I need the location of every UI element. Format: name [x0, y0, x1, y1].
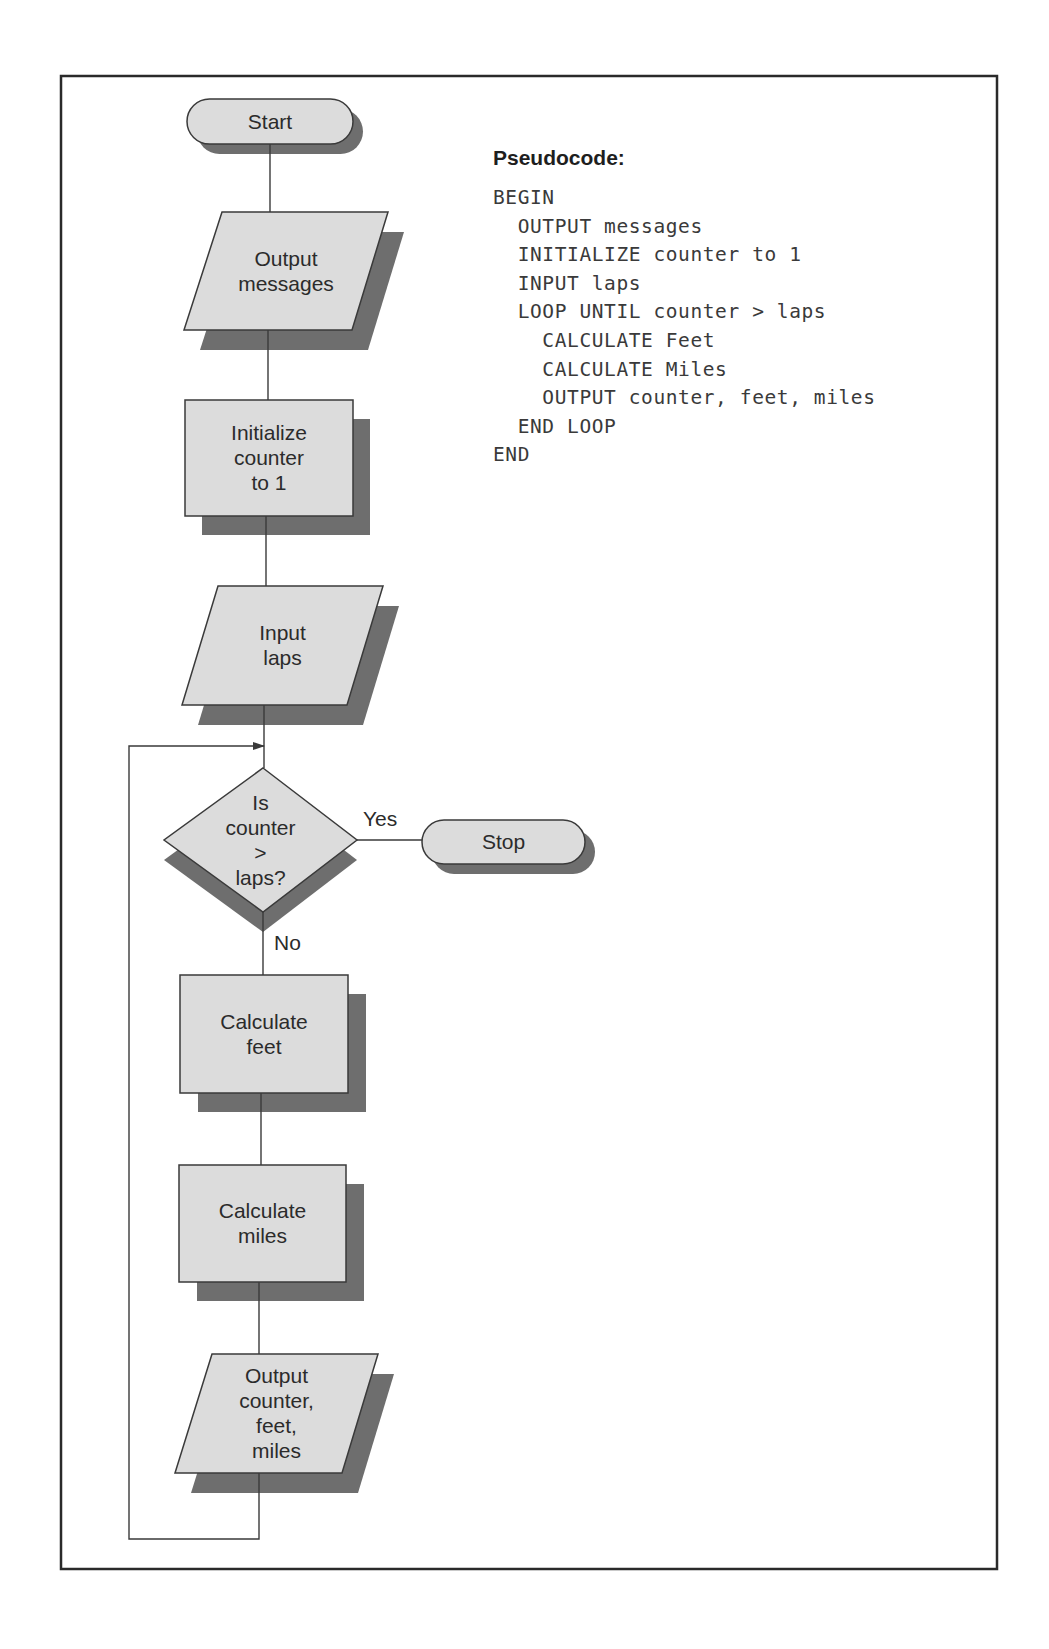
- node-label: Calculate: [219, 1199, 307, 1222]
- node-initialize-counter: Initializecounterto 1: [185, 400, 353, 516]
- node-calculate-miles: Calculatemiles: [179, 1165, 346, 1282]
- node-label: Output: [245, 1364, 308, 1387]
- node-stop: Stop: [422, 820, 585, 864]
- node-label: laps: [263, 646, 302, 669]
- node-label: Calculate: [220, 1010, 308, 1033]
- node-label: Is: [252, 791, 268, 814]
- node-label: to 1: [251, 471, 286, 494]
- node-input-laps: Inputlaps: [182, 586, 383, 705]
- node-label: counter,: [239, 1389, 314, 1412]
- pseudocode-line: INITIALIZE counter to 1: [493, 241, 876, 270]
- node-output-counter-feet-miles: Outputcounter,feet,miles: [175, 1354, 378, 1473]
- node-label: feet,: [256, 1414, 297, 1437]
- node-start: Start: [187, 99, 353, 144]
- node-label: miles: [238, 1224, 287, 1247]
- pseudocode-line: END LOOP: [493, 413, 876, 442]
- pseudocode-line: OUTPUT messages: [493, 213, 876, 242]
- node-label: Stop: [482, 830, 525, 853]
- node-label: Initialize: [231, 421, 307, 444]
- node-label: laps?: [235, 866, 285, 889]
- pseudocode-block: BEGIN OUTPUT messages INITIALIZE counter…: [493, 184, 876, 470]
- pseudocode-title: Pseudocode:: [493, 146, 625, 170]
- pseudocode-line: LOOP UNTIL counter > laps: [493, 298, 876, 327]
- pseudocode-line: END: [493, 441, 876, 470]
- node-output-messages: Outputmessages: [184, 212, 388, 330]
- node-label: counter: [225, 816, 295, 839]
- node-decision-counter-gt-laps: Iscounter>laps?: [164, 768, 357, 912]
- edge-label-no: No: [274, 931, 301, 954]
- pseudocode-line: INPUT laps: [493, 270, 876, 299]
- node-calculate-feet: Calculatefeet: [180, 975, 348, 1093]
- node-label: Start: [248, 110, 293, 133]
- pseudocode-line: OUTPUT counter, feet, miles: [493, 384, 876, 413]
- pseudocode-line: BEGIN: [493, 184, 876, 213]
- node-label: >: [254, 841, 266, 864]
- node-label: miles: [252, 1439, 301, 1462]
- pseudocode-line: CALCULATE Feet: [493, 327, 876, 356]
- node-label: messages: [238, 272, 334, 295]
- edge-label-yes: Yes: [363, 807, 397, 830]
- pseudocode-line: CALCULATE Miles: [493, 356, 876, 385]
- node-label: counter: [234, 446, 304, 469]
- node-label: feet: [246, 1035, 281, 1058]
- node-label: Output: [254, 247, 317, 270]
- node-label: Input: [259, 621, 306, 644]
